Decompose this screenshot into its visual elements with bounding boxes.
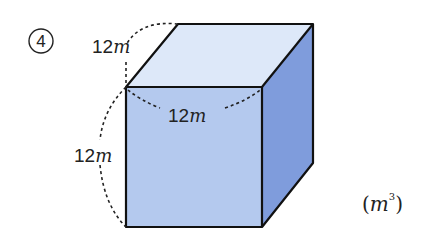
height-arc-bottom xyxy=(100,165,126,227)
height-arc-top xyxy=(100,87,126,140)
height-label: 12m xyxy=(74,146,112,165)
depth-label: 12m xyxy=(92,37,130,56)
width-label: 12m xyxy=(168,106,206,125)
cube-diagram: 4 xyxy=(0,0,421,250)
problem-number: 4 xyxy=(36,32,45,51)
answer-unit: (m3) xyxy=(362,194,403,214)
